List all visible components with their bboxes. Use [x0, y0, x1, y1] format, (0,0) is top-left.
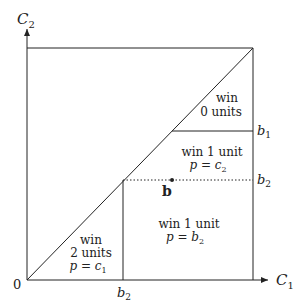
svg-text:win: win: [80, 233, 102, 247]
point-b-label: b: [162, 183, 172, 199]
svg-text:p = c2: p = c2: [189, 158, 226, 174]
y-axis-label: C2: [17, 10, 35, 30]
tick-b1: b1: [257, 123, 271, 140]
x-axis-label: C1: [276, 271, 294, 291]
svg-text:win: win: [216, 91, 238, 105]
tick-b2-bottom: b2: [117, 285, 131, 302]
svg-text:win 1 unit: win 1 unit: [158, 217, 219, 231]
origin-label: 0: [13, 277, 21, 292]
svg-text:win 1 unit: win 1 unit: [181, 145, 242, 159]
svg-text:0 units: 0 units: [200, 105, 242, 119]
svg-text:p = b2: p = b2: [166, 230, 204, 246]
bid-region-diagram: b C2 C1 0 b1 b2 b2 win 0 units win 1 uni…: [0, 0, 302, 308]
region-win-1-unit-b2: win 1 unit p = b2: [158, 217, 219, 246]
svg-text:p = c1: p = c1: [69, 259, 106, 275]
svg-text:2 units: 2 units: [70, 246, 112, 260]
region-win-1-unit-c2: win 1 unit p = c2: [181, 145, 242, 174]
point-b: [170, 178, 174, 182]
tick-b2-right: b2: [257, 172, 271, 189]
region-win-2-units: win 2 units p = c1: [69, 233, 111, 275]
